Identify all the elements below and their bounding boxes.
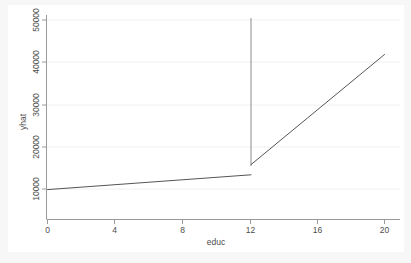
y-tick-label-30000: 30000 — [31, 93, 41, 117]
y-tick-label-10000: 10000 — [31, 177, 41, 201]
series-yhat-above-cutoff — [251, 55, 385, 165]
x-tick-label-8: 8 — [180, 225, 185, 235]
y-tick-labels: 50000 40000 30000 20000 10000 — [31, 8, 41, 201]
x-tick-label-4: 4 — [112, 225, 117, 235]
data-series — [48, 18, 385, 190]
chart-figure: 50000 40000 30000 20000 10000 0 4 8 12 1… — [0, 0, 411, 263]
x-tick-marks — [48, 220, 385, 225]
x-tick-label-0: 0 — [45, 225, 50, 235]
x-tick-labels: 0 4 8 12 16 20 — [45, 225, 389, 235]
x-axis-title: educ — [207, 237, 226, 247]
y-axis-title: yhat — [18, 113, 28, 130]
x-tick-label-16: 16 — [313, 225, 323, 235]
chart-plot-svg: 50000 40000 30000 20000 10000 0 4 8 12 1… — [0, 0, 411, 263]
x-tick-label-20: 20 — [380, 225, 390, 235]
y-tick-label-50000: 50000 — [31, 8, 41, 32]
y-tick-label-40000: 40000 — [31, 50, 41, 74]
y-tick-marks — [42, 20, 47, 189]
x-tick-label-12: 12 — [246, 225, 256, 235]
gridlines — [47, 20, 400, 189]
y-tick-label-20000: 20000 — [31, 135, 41, 159]
series-yhat-below-cutoff — [48, 175, 252, 190]
